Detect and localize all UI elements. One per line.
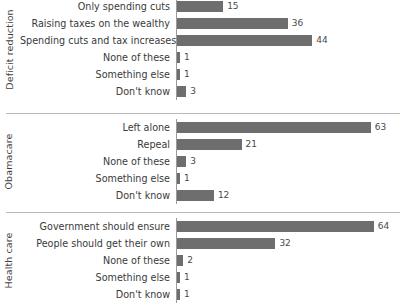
bar-value-label: 63 — [375, 119, 386, 136]
bar-row: Government should ensure64 — [0, 218, 404, 235]
bar-row: Something else1 — [0, 269, 404, 286]
category-label: Don't know — [20, 83, 170, 100]
category-label: Repeal — [20, 136, 170, 153]
bar — [177, 122, 371, 133]
bar-value-label: 21 — [246, 136, 257, 153]
category-label: None of these — [20, 153, 170, 170]
bar — [177, 18, 288, 29]
bar-value-label: 1 — [184, 286, 190, 303]
bar-value-label: 3 — [190, 83, 196, 100]
bar-row: Spending cuts and tax increases44 — [0, 32, 404, 49]
bar-row: Repeal21 — [0, 136, 404, 153]
bar-row: Raising taxes on the wealthy36 — [0, 15, 404, 32]
category-label: Government should ensure — [20, 218, 170, 235]
bar — [177, 69, 180, 80]
bar-row: None of these1 — [0, 49, 404, 66]
bar — [177, 139, 242, 150]
chart-panel: Health careGovernment should ensure64Peo… — [0, 218, 404, 303]
bar-value-label: 1 — [184, 170, 190, 187]
panel-separator-1 — [6, 113, 400, 114]
bar — [177, 221, 374, 232]
category-label: Only spending cuts — [20, 0, 170, 15]
bar-value-label: 32 — [279, 235, 290, 252]
bar — [177, 173, 180, 184]
category-label: Don't know — [20, 286, 170, 303]
bar-value-label: 15 — [227, 0, 238, 15]
category-label: Something else — [20, 269, 170, 286]
bar-row: Don't know1 — [0, 286, 404, 303]
bar — [177, 238, 275, 249]
bar — [177, 86, 186, 97]
bar-value-label: 1 — [184, 269, 190, 286]
category-label: None of these — [20, 252, 170, 269]
category-label: None of these — [20, 49, 170, 66]
bar-row: Left alone63 — [0, 119, 404, 136]
category-label: Left alone — [20, 119, 170, 136]
bar-value-label: 3 — [190, 153, 196, 170]
category-label: People should get their own — [20, 235, 170, 252]
category-label: Spending cuts and tax increases — [20, 32, 170, 49]
bar-value-label: 36 — [292, 15, 303, 32]
bar-row: Don't know3 — [0, 83, 404, 100]
bar-row: Only spending cuts15 — [0, 0, 404, 15]
bar-row: Something else1 — [0, 170, 404, 187]
bar-row: None of these3 — [0, 153, 404, 170]
bar — [177, 156, 186, 167]
category-label: Raising taxes on the wealthy — [20, 15, 170, 32]
bar — [177, 289, 180, 300]
bar-row: Something else1 — [0, 66, 404, 83]
bar — [177, 272, 180, 283]
category-label: Something else — [20, 170, 170, 187]
bar-value-label: 64 — [378, 218, 389, 235]
bar-value-label: 12 — [218, 187, 229, 204]
chart-panel: Deficit reductionOnly spending cuts15Rai… — [0, 0, 404, 100]
bar — [177, 52, 180, 63]
panel-separator-2 — [6, 212, 400, 213]
category-label: Something else — [20, 66, 170, 83]
bar — [177, 190, 214, 201]
bar — [177, 255, 183, 266]
grouped-bar-chart: Deficit reductionOnly spending cuts15Rai… — [0, 0, 404, 306]
bar — [177, 35, 312, 46]
bar-value-label: 1 — [184, 66, 190, 83]
chart-panel: ObamacareLeft alone63Repeal21None of the… — [0, 119, 404, 204]
bar-row: People should get their own32 — [0, 235, 404, 252]
category-label: Don't know — [20, 187, 170, 204]
bar-value-label: 44 — [316, 32, 327, 49]
bar-row: None of these2 — [0, 252, 404, 269]
bar — [177, 1, 223, 12]
bar-value-label: 1 — [184, 49, 190, 66]
bar-value-label: 2 — [187, 252, 193, 269]
bar-row: Don't know12 — [0, 187, 404, 204]
